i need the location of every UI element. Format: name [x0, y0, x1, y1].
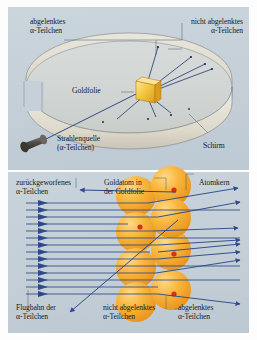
- label-backscattered-alpha: zurückgeworfenes α-Teilchen: [16, 178, 71, 196]
- ring-interior: [26, 41, 232, 133]
- label-gold-foil: Goldfolie: [72, 86, 101, 95]
- label-line: abgelenktes: [178, 303, 213, 312]
- label-line: α-Teilchen: [103, 312, 155, 321]
- label-line: Schirm: [203, 141, 225, 150]
- figure-root: abgelenktes α-Teilchen nicht abgelenktes…: [0, 0, 257, 340]
- gold-foil-target: [136, 77, 161, 103]
- label-line: Strahlenquelle: [57, 134, 100, 143]
- label-line: zurückgeworfenes: [16, 178, 71, 187]
- label-line: Atomkern: [199, 178, 229, 187]
- label-line: der Goldfolie: [104, 187, 144, 196]
- label-line: nicht abgelenktes: [140, 17, 243, 26]
- label-gold-atom: Goldatom in der Goldfolie: [104, 178, 144, 196]
- label-nucleus: Atomkern: [199, 178, 229, 187]
- label-line: Goldfolie: [72, 86, 101, 95]
- label-line: (α-Teilchen): [57, 143, 100, 152]
- label-deflected-alpha-bottom: abgelenktes α-Teilchen: [178, 303, 213, 321]
- label-line: α-Teilchen: [30, 26, 65, 35]
- label-undeflected-alpha-bottom: nicht abgelenktes α-Teilchen: [103, 303, 155, 321]
- alpha-radiation-source: [19, 134, 49, 154]
- label-screen: Schirm: [203, 141, 225, 150]
- beam-direction-arrows: [38, 200, 48, 297]
- label-line: Flugbahn der: [16, 303, 56, 312]
- label-line: α-Teilchen: [16, 312, 56, 321]
- label-deflected-alpha-top: abgelenktes α-Teilchen: [30, 17, 65, 35]
- label-line: α-Teilchen: [178, 312, 213, 321]
- label-radiation-source: Strahlenquelle (α-Teilchen): [57, 134, 100, 152]
- label-line: α-Teilchen: [140, 26, 243, 35]
- ring-gap: [22, 81, 44, 111]
- label-line: abgelenktes: [30, 17, 65, 26]
- label-undeflected-alpha-top: nicht abgelenktes α-Teilchen: [140, 17, 243, 35]
- label-line: nicht abgelenktes: [103, 303, 155, 312]
- label-trajectory: Flugbahn der α-Teilchen: [16, 303, 56, 321]
- label-line: Goldatom in: [104, 178, 144, 187]
- label-line: α-Teilchen: [16, 187, 71, 196]
